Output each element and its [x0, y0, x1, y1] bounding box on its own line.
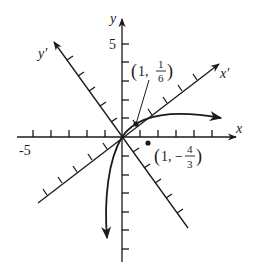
y-axis-ticks [122, 44, 129, 249]
x-tick-label-neg5: -5 [19, 143, 31, 158]
rotated-axes-diagram: x y x′ y′ -5 5 ( 1, 1 6 ) ( 1, − 4 3 ) [0, 0, 257, 268]
svg-text:1: 1 [158, 58, 164, 70]
leader-line [136, 80, 149, 124]
svg-text:3: 3 [187, 158, 193, 170]
svg-text:4: 4 [187, 143, 193, 155]
svg-text:1, −: 1, − [161, 149, 183, 164]
svg-text:(: ( [154, 146, 160, 167]
svg-text:): ) [167, 61, 173, 82]
svg-text:): ) [196, 146, 202, 167]
svg-text:1,: 1, [138, 64, 149, 79]
point-1-neg-four-thirds-dot [145, 140, 150, 145]
point-label-1-one-sixth: ( 1, 1 6 ) [131, 58, 173, 84]
x-prime-axis-label: x′ [219, 66, 230, 81]
parabola-curve [106, 114, 221, 238]
y-tick-label-5: 5 [109, 37, 116, 52]
x-prime-axis [38, 64, 219, 203]
svg-text:6: 6 [158, 72, 164, 84]
svg-text:(: ( [131, 61, 137, 82]
y-prime-axis-label: y′ [36, 46, 48, 61]
x-axis-label: x [235, 121, 243, 136]
y-axis-label: y [108, 11, 117, 26]
point-label-1-neg-four-thirds: ( 1, − 4 3 ) [154, 143, 202, 170]
